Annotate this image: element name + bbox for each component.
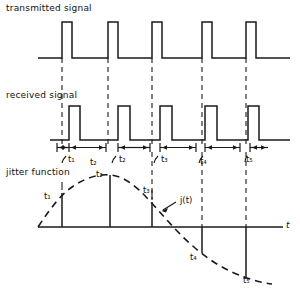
interval-label-t2-left: t₂	[90, 158, 97, 167]
interval-label-t1: t₁	[68, 155, 75, 164]
reference-lines	[62, 58, 246, 227]
received-signal-label: received signal	[6, 91, 77, 100]
curve-label-t1: t₁	[44, 192, 51, 201]
diagram-canvas	[0, 0, 300, 293]
transmitted-signal-label: transmitted signal	[6, 4, 92, 13]
interval-label-t2-right: t₂	[119, 155, 126, 164]
jitter-curve-label: j(t)	[180, 196, 192, 205]
curve-label-t2: t₂	[96, 170, 103, 179]
interval-label-t5: t₅	[246, 155, 253, 164]
jitter-sample-bars	[62, 175, 246, 277]
jitter-curve	[38, 175, 272, 284]
interval-label-t3: t₃	[161, 155, 168, 164]
jt-leader	[162, 202, 177, 213]
jitter-diagram: transmitted signal received signal jitte…	[0, 0, 300, 293]
interval-dimension-row	[57, 143, 268, 152]
curve-label-t4: t₄	[190, 253, 197, 262]
time-axis-label: t	[286, 221, 290, 230]
received-signal-trace	[50, 106, 290, 140]
interval-label-t4: t₄	[200, 157, 207, 166]
jitter-function-label: jitter function	[6, 168, 70, 177]
curve-label-t5: t₅	[243, 276, 250, 285]
curve-label-t3: t₃	[143, 186, 150, 195]
transmitted-signal-trace	[38, 22, 290, 58]
